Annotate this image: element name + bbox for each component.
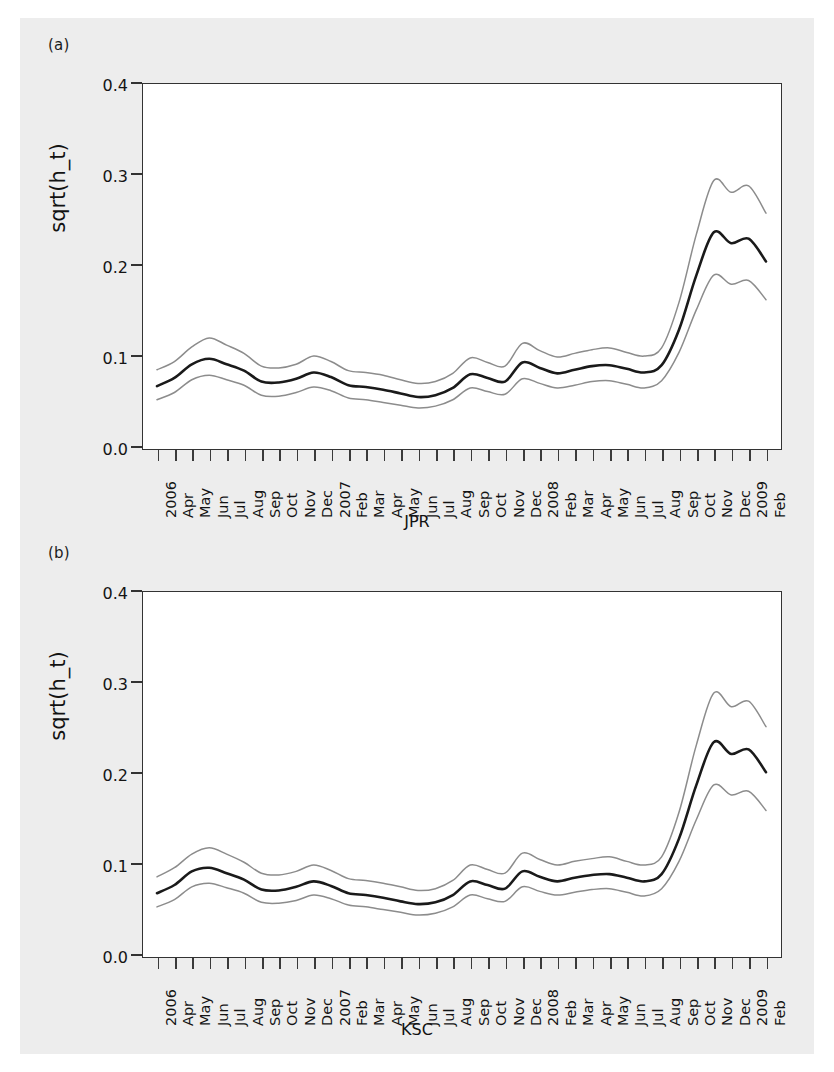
x-tick-mark [662, 958, 664, 969]
series-line [157, 179, 766, 384]
x-tick-mark [262, 958, 264, 969]
x-tick-mark [767, 958, 769, 969]
panel-b-x-tick-marks [142, 958, 782, 970]
x-tick-mark [767, 450, 769, 461]
x-tick-mark [714, 450, 716, 461]
x-tick-mark [419, 450, 421, 461]
x-tick-mark [419, 958, 421, 969]
x-tick-mark [453, 958, 455, 969]
panel-b-y-axis-label: sqrt(h_t) [46, 596, 70, 796]
x-tick-mark [662, 450, 664, 461]
x-tick-mark [523, 450, 525, 461]
x-tick-mark [332, 958, 334, 969]
x-tick-mark [366, 958, 368, 969]
x-tick-mark [227, 450, 229, 461]
x-tick-mark [192, 450, 194, 461]
x-tick-mark [314, 958, 316, 969]
x-tick-mark [210, 958, 212, 969]
y-tick-label: 0.0 [80, 440, 142, 454]
y-tick-label: 0.3 [80, 167, 142, 181]
x-tick-mark [714, 958, 716, 969]
y-tick-label: 0.4 [80, 76, 142, 90]
x-tick-mark [436, 450, 438, 461]
x-tick-mark [436, 958, 438, 969]
x-tick-mark [158, 958, 160, 969]
x-tick-mark [697, 450, 699, 461]
x-tick-mark [749, 450, 751, 461]
x-tick-mark [175, 958, 177, 969]
x-tick-mark [558, 450, 560, 461]
x-tick-mark [314, 450, 316, 461]
x-tick-mark [645, 958, 647, 969]
series-line [157, 692, 766, 891]
x-tick-mark [279, 958, 281, 969]
x-tick-mark [749, 958, 751, 969]
x-tick-mark [645, 450, 647, 461]
x-tick-mark [680, 958, 682, 969]
panel-b: (b) sqrt(h_t) 0.00.10.20.30.4 2006AprMay… [20, 534, 814, 1034]
x-tick-mark [158, 450, 160, 461]
x-tick-mark [471, 450, 473, 461]
x-tick-mark [610, 450, 612, 461]
x-tick-mark [401, 450, 403, 461]
y-tick-label: 0.0 [80, 948, 142, 962]
x-tick-mark [627, 450, 629, 461]
x-tick-mark [540, 450, 542, 461]
x-tick-mark [349, 450, 351, 461]
x-tick-mark [349, 958, 351, 969]
y-tick-label: 0.1 [80, 857, 142, 871]
panel-a-tag: (a) [48, 36, 70, 54]
x-tick-mark [523, 958, 525, 969]
x-tick-mark [192, 958, 194, 969]
x-tick-mark [471, 958, 473, 969]
x-tick-mark [384, 450, 386, 461]
x-tick-mark [227, 958, 229, 969]
y-tick-label: 0.2 [80, 766, 142, 780]
panel-a-plot-area [142, 83, 782, 450]
figure-canvas: (a) sqrt(h_t) 0.00.10.20.30.4 2006AprMay… [20, 18, 814, 1054]
x-tick-mark [680, 450, 682, 461]
x-tick-mark [175, 450, 177, 461]
x-tick-mark [697, 958, 699, 969]
panel-b-y-tick-labels: 0.00.10.20.30.4 [80, 591, 142, 958]
series-line [157, 741, 766, 904]
x-tick-mark [210, 450, 212, 461]
x-tick-mark [627, 958, 629, 969]
x-tick-mark [610, 958, 612, 969]
panel-b-tag: (b) [48, 544, 70, 562]
x-tick-mark [488, 958, 490, 969]
panel-a-x-axis-title: JPR [20, 512, 814, 531]
x-tick-mark [245, 958, 247, 969]
panel-a: (a) sqrt(h_t) 0.00.10.20.30.4 2006AprMay… [20, 26, 814, 526]
panel-a-y-tick-labels: 0.00.10.20.30.4 [80, 83, 142, 450]
x-tick-mark [593, 958, 595, 969]
y-tick-label: 0.3 [80, 675, 142, 689]
panel-b-curves [143, 592, 780, 956]
x-tick-mark [575, 450, 577, 461]
x-tick-mark [488, 450, 490, 461]
x-tick-mark [575, 958, 577, 969]
x-tick-mark [366, 450, 368, 461]
x-tick-mark [558, 958, 560, 969]
x-tick-mark [732, 450, 734, 461]
x-tick-mark [262, 450, 264, 461]
x-tick-mark [540, 958, 542, 969]
y-tick-label: 0.2 [80, 258, 142, 272]
panel-a-y-axis-label: sqrt(h_t) [46, 88, 70, 288]
y-tick-label: 0.1 [80, 349, 142, 363]
x-tick-mark [506, 958, 508, 969]
x-tick-mark [332, 450, 334, 461]
x-tick-mark [732, 958, 734, 969]
panel-b-x-axis-title: KSC [20, 1020, 814, 1039]
panel-a-curves [143, 84, 780, 448]
panel-b-plot-area [142, 591, 782, 958]
x-tick-mark [453, 450, 455, 461]
x-tick-mark [401, 958, 403, 969]
y-tick-label: 0.4 [80, 584, 142, 598]
x-tick-mark [506, 450, 508, 461]
x-tick-mark [279, 450, 281, 461]
x-tick-mark [297, 958, 299, 969]
x-tick-mark [384, 958, 386, 969]
panel-a-x-tick-marks [142, 450, 782, 462]
x-tick-mark [593, 450, 595, 461]
